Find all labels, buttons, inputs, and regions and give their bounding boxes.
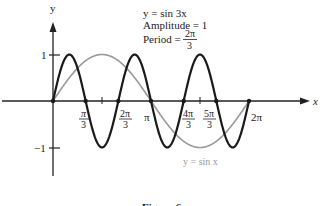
svg-text:5π: 5π bbox=[204, 108, 214, 119]
x-tick-label-2pi: 2π bbox=[251, 111, 263, 123]
zero-dot bbox=[51, 99, 55, 103]
zero-dot bbox=[214, 99, 218, 103]
y-tick-label-1: 1 bbox=[41, 49, 47, 61]
figure-caption: Figure 6 bbox=[142, 201, 182, 206]
svg-text:2π: 2π bbox=[120, 108, 130, 119]
series-label-sin-x: y = sin x bbox=[183, 156, 218, 167]
x-tick-label-4pi-3: 4π 3 bbox=[182, 108, 195, 130]
svg-text:3: 3 bbox=[187, 40, 192, 51]
annotation-amplitude: Amplitude = 1 bbox=[143, 19, 207, 31]
svg-text:π: π bbox=[81, 108, 87, 119]
zero-dot bbox=[247, 99, 251, 103]
zero-dot bbox=[83, 99, 87, 103]
zero-dot bbox=[149, 99, 153, 103]
svg-text:3: 3 bbox=[207, 119, 212, 130]
x-tick-label-pi: π bbox=[144, 111, 150, 123]
zero-dot bbox=[181, 99, 185, 103]
svg-text:Period =: Period = bbox=[143, 33, 181, 45]
y-tick-label-neg1: −1 bbox=[34, 142, 46, 154]
svg-text:4π: 4π bbox=[183, 108, 193, 119]
svg-text:2π: 2π bbox=[185, 28, 195, 39]
x-axis-label: x bbox=[312, 95, 318, 107]
y-axis-arrow-icon bbox=[50, 22, 57, 32]
annotation-equation: y = sin 3x bbox=[143, 7, 187, 19]
svg-text:3: 3 bbox=[81, 119, 86, 130]
x-tick-label-2pi-3: 2π 3 bbox=[119, 108, 132, 130]
y-axis-label: y bbox=[50, 2, 56, 14]
svg-text:3: 3 bbox=[123, 119, 128, 130]
x-axis-arrow-icon bbox=[300, 98, 310, 105]
sine-chart: y x 1 −1 π 3 2π 3 π 4π 3 5π 3 2π y = sin… bbox=[0, 0, 324, 206]
annotation-period: Period = 2π 3 bbox=[143, 28, 197, 51]
svg-text:3: 3 bbox=[186, 119, 191, 130]
x-tick-label-5pi-3: 5π 3 bbox=[203, 108, 216, 130]
zero-dot bbox=[116, 99, 120, 103]
